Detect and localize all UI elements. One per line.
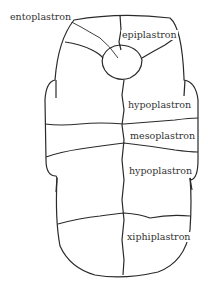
right-notch	[184, 80, 185, 96]
label-mesoplastron: mesoplastron	[129, 131, 196, 141]
plastron-diagram	[0, 0, 208, 286]
hypo-meso-suture-1	[45, 118, 198, 125]
label-hypoplastron-lower: hypoplastron	[128, 166, 193, 176]
entoplastron-shape	[102, 45, 142, 79]
epiplastron-suture-left	[65, 42, 103, 58]
label-hypoplastron-upper: hypoplastron	[127, 100, 192, 110]
label-entoplastron: entoplastron	[9, 12, 72, 22]
entoplastron-leader	[64, 18, 118, 58]
label-epiplastron: epiplastron	[121, 30, 178, 40]
label-xiphiplastron: xiphiplastron	[126, 232, 192, 242]
midline-suture	[119, 15, 124, 275]
